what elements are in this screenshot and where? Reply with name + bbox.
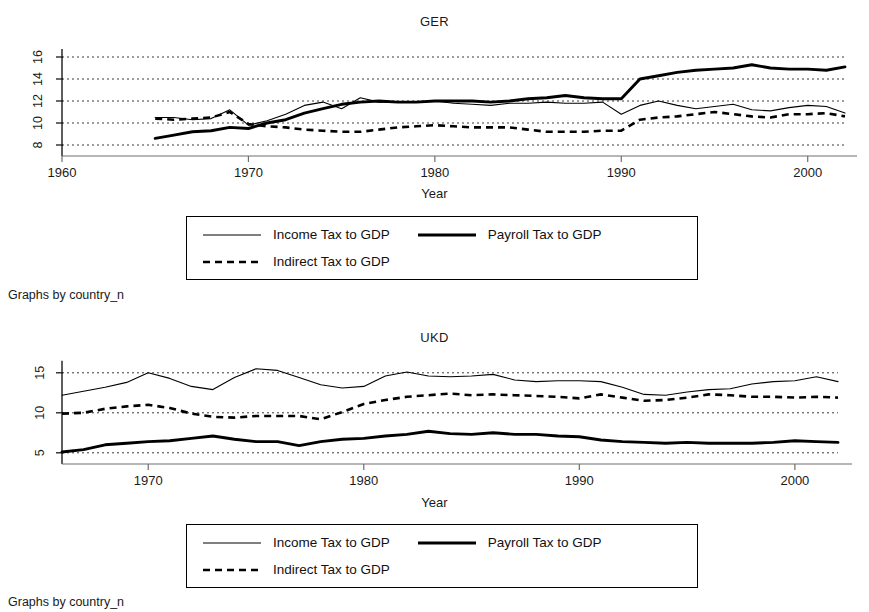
legend-row: Indirect Tax to GDP <box>187 556 697 583</box>
x-tick-label-1990: 1990 <box>565 473 594 488</box>
series-line-indirect <box>155 112 845 132</box>
legend-label: Income Tax to GDP <box>273 227 390 242</box>
legend-label: Payroll Tax to GDP <box>488 535 602 550</box>
x-axis-title-ger: Year <box>0 186 869 201</box>
y-tick-label-14: 14 <box>31 72 45 86</box>
legend-item-income-ger[interactable]: Income Tax to GDP <box>201 227 390 242</box>
y-tick-label-5: 5 <box>33 449 47 456</box>
legend-item-payroll-ukd[interactable]: Payroll Tax to GDP <box>416 535 602 550</box>
legend-swatch-payroll-icon <box>416 228 478 242</box>
chart-panel-ukd: UKD 510151970198019902000 Year Income Ta… <box>0 312 869 612</box>
x-tick-label-1980: 1980 <box>420 165 449 180</box>
legend-ukd: Income Tax to GDPPayroll Tax to GDPIndir… <box>186 524 698 588</box>
legend-label: Income Tax to GDP <box>273 535 390 550</box>
legend-label: Payroll Tax to GDP <box>488 227 602 242</box>
legend-item-indirect-ger[interactable]: Indirect Tax to GDP <box>201 254 390 269</box>
legend-item-income-ukd[interactable]: Income Tax to GDP <box>201 535 390 550</box>
x-tick-label-2000: 2000 <box>793 165 822 180</box>
caption-ger: Graphs by country_n <box>8 288 124 302</box>
x-tick-label-1990: 1990 <box>607 165 636 180</box>
legend-swatch-indirect-icon <box>201 255 263 269</box>
caption-ukd: Graphs by country_n <box>8 595 124 609</box>
legend-swatch-income-icon <box>201 228 263 242</box>
y-tick-label-12: 12 <box>31 94 45 108</box>
x-tick-label-1980: 1980 <box>349 473 378 488</box>
y-tick-label-8: 8 <box>31 141 45 148</box>
series-line-indirect <box>62 394 838 420</box>
legend-item-indirect-ukd[interactable]: Indirect Tax to GDP <box>201 562 390 577</box>
chart-title-ukd: UKD <box>0 330 869 345</box>
x-tick-label-1970: 1970 <box>134 473 163 488</box>
x-tick-label-1970: 1970 <box>234 165 263 180</box>
x-axis-title-ukd: Year <box>0 495 869 510</box>
y-tick-label-16: 16 <box>31 50 45 64</box>
x-tick-label-2000: 2000 <box>780 473 809 488</box>
legend-label: Indirect Tax to GDP <box>273 562 390 577</box>
y-tick-label-10: 10 <box>33 406 47 420</box>
legend-row: Indirect Tax to GDP <box>187 248 697 275</box>
chart-panel-ger: GER 81012141619601970198019902000 Year I… <box>0 0 869 312</box>
y-tick-label-10: 10 <box>31 116 45 130</box>
legend-label: Indirect Tax to GDP <box>273 254 390 269</box>
legend-row: Income Tax to GDPPayroll Tax to GDP <box>187 529 697 556</box>
legend-ger: Income Tax to GDPPayroll Tax to GDPIndir… <box>186 216 698 280</box>
y-tick-label-15: 15 <box>33 366 47 380</box>
legend-row: Income Tax to GDPPayroll Tax to GDP <box>187 221 697 248</box>
chart-title-ger: GER <box>0 14 869 29</box>
series-line-payroll <box>62 431 838 452</box>
legend-swatch-income-icon <box>201 536 263 550</box>
legend-swatch-payroll-icon <box>416 536 478 550</box>
x-tick-label-1960: 1960 <box>48 165 77 180</box>
legend-swatch-indirect-icon <box>201 563 263 577</box>
legend-item-payroll-ger[interactable]: Payroll Tax to GDP <box>416 227 602 242</box>
